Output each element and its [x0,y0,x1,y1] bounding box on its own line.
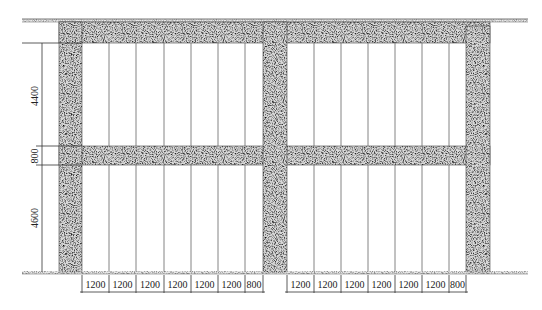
top-reference-line [22,19,528,22]
dim-label: 1200 [195,279,215,290]
dim-label: 1200 [86,279,106,290]
dim-label: 1200 [318,279,338,290]
left-column [59,22,82,272]
dim-label: 800 [450,279,465,290]
dim-label: 800 [247,279,262,290]
right-bay-dimension-labels: 1200 1200 1200 1200 1200 1200 800 [291,279,466,290]
dimension-label-4400: 4400 [29,86,40,106]
dim-label: 1200 [345,279,365,290]
right-column [466,26,490,272]
dim-label: 1200 [372,279,392,290]
dim-label: 1200 [291,279,311,290]
left-bay-dimension-labels: 1200 1200 1200 1200 1200 1200 800 [86,279,262,290]
dimension-label-800: 800 [29,149,40,164]
center-column [263,22,287,272]
dim-label: 1200 [399,279,419,290]
dim-label: 1200 [426,279,446,290]
dimension-label-4600: 4600 [29,208,40,228]
dim-label: 1200 [140,279,160,290]
dim-label: 1200 [168,279,188,290]
ground-line [22,271,528,274]
elevation-drawing: 4400 800 4600 1200 1200 1200 1200 1200 1… [0,0,542,310]
dim-label: 1200 [113,279,133,290]
dim-label: 1200 [222,279,242,290]
